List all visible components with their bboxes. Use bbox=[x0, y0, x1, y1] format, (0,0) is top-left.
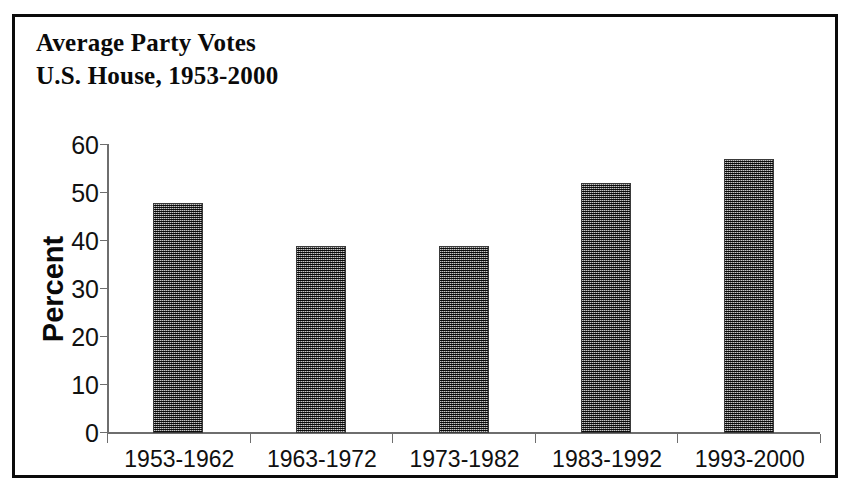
x-tick-mark-2 bbox=[392, 434, 393, 443]
y-tick-mark bbox=[100, 336, 108, 337]
y-tick-label: 30 bbox=[71, 274, 99, 303]
y-tick-0: 0 bbox=[108, 432, 116, 433]
y-tick-40: 40 bbox=[108, 240, 116, 241]
bar-1973-1982 bbox=[439, 246, 489, 433]
y-tick-60: 60 bbox=[108, 144, 116, 145]
x-tick-label-1993-2000: 1993-2000 bbox=[695, 446, 805, 473]
y-tick-label: 40 bbox=[71, 226, 99, 255]
y-tick-mark bbox=[100, 240, 108, 241]
x-tick-mark-1 bbox=[250, 434, 251, 443]
chart-title-line-2: U.S. House, 1953-2000 bbox=[36, 59, 278, 92]
y-tick-30: 30 bbox=[108, 288, 116, 289]
bar-1993-2000 bbox=[724, 159, 774, 433]
y-tick-label: 0 bbox=[85, 418, 99, 447]
plot-area: Percent 0102030405060 bbox=[108, 145, 840, 433]
bar-1983-1992 bbox=[581, 183, 631, 433]
y-tick-mark bbox=[100, 384, 108, 385]
y-tick-mark bbox=[100, 432, 108, 433]
y-tick-mark bbox=[100, 288, 108, 289]
x-tick-label-1953-1962: 1953-1962 bbox=[124, 446, 234, 473]
y-tick-mark bbox=[100, 144, 108, 145]
y-tick-50: 50 bbox=[108, 192, 116, 193]
x-tick-label-1963-1972: 1963-1972 bbox=[267, 446, 377, 473]
x-tick-mark-0 bbox=[107, 434, 108, 443]
bar-1963-1972 bbox=[296, 246, 346, 433]
chart-title: Average Party Votes U.S. House, 1953-200… bbox=[36, 26, 278, 92]
chart-title-line-1: Average Party Votes bbox=[36, 26, 278, 59]
y-tick-label: 60 bbox=[71, 130, 99, 159]
bar-1953-1962 bbox=[153, 203, 203, 433]
x-tick-mark-4 bbox=[677, 434, 678, 443]
y-tick-mark bbox=[100, 192, 108, 193]
x-tick-label-1973-1982: 1973-1982 bbox=[410, 446, 520, 473]
x-tick-label-1983-1992: 1983-1992 bbox=[552, 446, 662, 473]
y-tick-10: 10 bbox=[108, 384, 116, 385]
y-tick-label: 10 bbox=[71, 370, 99, 399]
y-tick-label: 50 bbox=[71, 178, 99, 207]
y-axis-title: Percent bbox=[37, 236, 70, 342]
chart-figure: Average Party Votes U.S. House, 1953-200… bbox=[0, 0, 853, 494]
x-tick-mark-3 bbox=[535, 434, 536, 443]
y-tick-20: 20 bbox=[108, 336, 116, 337]
y-tick-label: 20 bbox=[71, 322, 99, 351]
x-tick-mark-5 bbox=[820, 434, 821, 443]
